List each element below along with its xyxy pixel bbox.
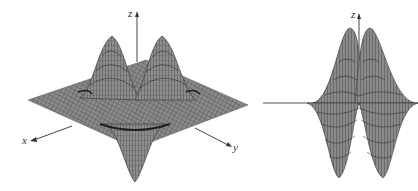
z-axis-label: z — [351, 9, 355, 20]
surface-plot-side-view: z — [255, 0, 418, 191]
z-axis-arrow-icon — [357, 13, 361, 19]
surface-plot-perspective-svg — [0, 0, 260, 191]
y-axis-arrow-icon — [226, 142, 232, 147]
z-axis-arrow-icon — [135, 11, 139, 17]
x-axis-label: x — [22, 135, 27, 146]
x-axis-line — [34, 126, 72, 140]
peak-left — [313, 28, 360, 103]
y-axis-label: y — [233, 142, 238, 153]
surface-plot-side-view-svg — [255, 0, 418, 191]
x-axis-arrow-icon — [30, 137, 37, 142]
trough-front — [104, 124, 166, 182]
y-axis-line — [195, 128, 228, 145]
z-axis-label: z — [128, 8, 132, 19]
surface-plot-perspective: z x y — [0, 0, 260, 191]
